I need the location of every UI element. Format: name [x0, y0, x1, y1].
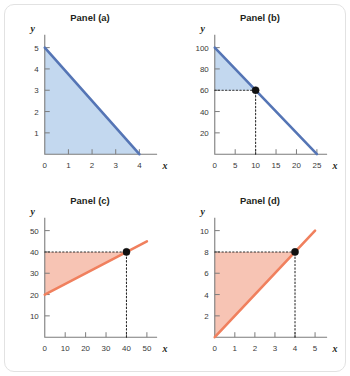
panel-b: Panel (b)051015202520406080100xy [175, 5, 345, 188]
x-tick-label-1-20: 20 [292, 161, 301, 170]
y-tick-label-0-3: 3 [34, 86, 39, 95]
y-tick-label-1-40: 40 [200, 108, 209, 117]
x-tick-label-0-4: 4 [137, 161, 142, 170]
x-tick-label-1-0: 0 [213, 161, 218, 170]
axes-1 [215, 35, 327, 154]
figure-card: Panel (a)0123412345xy Panel (b)051015202… [4, 4, 346, 372]
x-tick-label-1-5: 5 [233, 161, 238, 170]
panel-title-0: Panel (a) [70, 12, 109, 23]
x-tick-label-3-0: 0 [213, 344, 218, 353]
y-tick-label-0-2: 2 [34, 108, 39, 117]
panel-title-3: Panel (d) [240, 195, 280, 206]
x-tick-label-1-10: 10 [251, 161, 260, 170]
panel-chart-0: Panel (a)0123412345xy [5, 5, 175, 188]
x-axis-name-1: x [332, 160, 338, 171]
panel-title-1: Panel (b) [240, 12, 280, 23]
panel-chart-1: Panel (b)051015202520406080100xy [175, 5, 345, 188]
x-tick-label-2-30: 30 [102, 344, 111, 353]
y-axis-name-1: y [200, 23, 206, 34]
y-tick-label-2-30: 30 [30, 269, 39, 278]
x-tick-label-3-5: 5 [313, 344, 318, 353]
x-tick-label-2-40: 40 [122, 344, 131, 353]
panel-chart-3: Panel (d)012345246810xy [175, 188, 345, 371]
panel-title-2: Panel (c) [70, 195, 109, 206]
data-point-1-0 [252, 87, 259, 94]
x-tick-label-1-15: 15 [272, 161, 281, 170]
x-tick-label-2-10: 10 [61, 344, 70, 353]
panel-chart-2: Panel (c)010203040501020304050xy [5, 188, 175, 371]
y-tick-label-1-60: 60 [200, 86, 209, 95]
y-tick-label-2-50: 50 [30, 227, 39, 236]
x-tick-label-2-50: 50 [142, 344, 151, 353]
x-axis-name-3: x [332, 343, 338, 354]
y-tick-label-0-5: 5 [34, 44, 39, 53]
x-tick-label-3-4: 4 [293, 344, 298, 353]
x-tick-label-2-0: 0 [43, 344, 48, 353]
y-tick-label-3-6: 6 [204, 269, 209, 278]
x-axis-name-2: x [162, 343, 168, 354]
y-tick-label-2-20: 20 [30, 291, 39, 300]
panel-d: Panel (d)012345246810xy [175, 188, 345, 371]
y-tick-label-1-100: 100 [196, 44, 210, 53]
x-tick-label-3-3: 3 [273, 344, 278, 353]
x-tick-label-1-25: 25 [312, 161, 321, 170]
x-tick-label-0-2: 2 [90, 161, 95, 170]
y-tick-label-3-2: 2 [204, 312, 209, 321]
data-line-1 [215, 48, 317, 155]
x-tick-label-0-0: 0 [43, 161, 48, 170]
panel-grid: Panel (a)0123412345xy Panel (b)051015202… [5, 5, 345, 371]
y-tick-label-2-40: 40 [30, 248, 39, 257]
x-tick-label-0-3: 3 [114, 161, 119, 170]
y-tick-label-0-1: 1 [34, 129, 39, 138]
x-axis-name-0: x [162, 160, 168, 171]
y-tick-label-2-10: 10 [30, 312, 39, 321]
y-axis-name-0: y [30, 23, 36, 34]
data-point-2-0 [123, 248, 130, 255]
y-tick-label-3-10: 10 [200, 227, 209, 236]
data-point-3-0 [291, 248, 298, 255]
y-tick-label-1-80: 80 [200, 65, 209, 74]
panel-c: Panel (c)010203040501020304050xy [5, 188, 175, 371]
y-axis-name-3: y [200, 206, 206, 217]
x-tick-label-3-1: 1 [233, 344, 238, 353]
y-tick-label-3-4: 4 [204, 291, 209, 300]
y-tick-label-0-4: 4 [34, 65, 39, 74]
x-tick-label-0-1: 1 [66, 161, 71, 170]
y-tick-label-1-20: 20 [200, 129, 209, 138]
x-tick-label-3-2: 2 [253, 344, 258, 353]
x-tick-label-2-20: 20 [81, 344, 90, 353]
panel-a: Panel (a)0123412345xy [5, 5, 175, 188]
y-tick-label-3-8: 8 [204, 248, 209, 257]
y-axis-name-2: y [30, 206, 36, 217]
